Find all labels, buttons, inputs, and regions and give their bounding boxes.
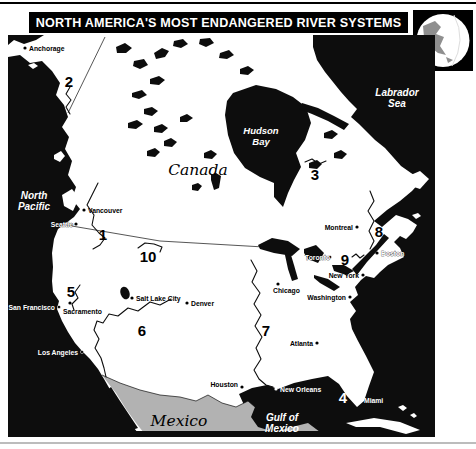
city-label: Boston xyxy=(381,250,404,257)
city-label: Denver xyxy=(191,300,214,307)
river-number-2: 2 xyxy=(65,73,73,90)
label-labrador-sea-line2: Sea xyxy=(388,98,406,109)
city-label: Seattle xyxy=(51,221,74,228)
river-number-1: 1 xyxy=(99,226,107,243)
city-label: Chicago xyxy=(273,287,300,295)
city-dot xyxy=(355,225,358,228)
city-label: Sacramento xyxy=(63,308,102,315)
river-number-3: 3 xyxy=(311,166,319,183)
city-dot xyxy=(375,251,378,254)
city-dot xyxy=(82,208,85,211)
label-hudson-bay-line2: Bay xyxy=(252,136,270,147)
page: NORTH AMERICA'S MOST ENDANGERED RIVER SY… xyxy=(0,0,476,449)
city-dot xyxy=(361,273,364,276)
city-washington: Washington xyxy=(307,294,351,302)
city-label: Miami xyxy=(364,397,383,404)
city-dot xyxy=(185,301,188,304)
city-dot xyxy=(74,222,77,225)
river-number-10: 10 xyxy=(140,248,157,265)
bottom-rule xyxy=(0,442,476,444)
river-number-8: 8 xyxy=(375,223,383,240)
city-label: Toronto xyxy=(305,254,330,261)
city-dot xyxy=(130,296,133,299)
river-number-5: 5 xyxy=(67,283,75,300)
city-dot xyxy=(80,350,83,353)
city-label: San Francisco xyxy=(9,304,55,311)
city-label: Los Angeles xyxy=(38,349,78,357)
city-san-francisco: San Francisco xyxy=(9,304,61,311)
city-label: Atlanta xyxy=(290,340,313,347)
river-number-4: 4 xyxy=(339,389,348,406)
title-bar: NORTH AMERICA'S MOST ENDANGERED RIVER SY… xyxy=(29,12,408,33)
city-anchorage: Anchorage xyxy=(23,45,64,53)
city-label: Houston xyxy=(210,381,238,388)
city-label: New York xyxy=(329,272,360,279)
city-label: Salt Lake City xyxy=(136,295,181,303)
city-label: Vancouver xyxy=(88,207,123,214)
city-salt-lake-city: Salt Lake City xyxy=(130,295,180,303)
label-gulf-of-mexico-line1: Gulf of xyxy=(266,412,300,423)
city-dot xyxy=(23,46,26,49)
city-dot xyxy=(274,387,277,390)
city-label: New Orleans xyxy=(280,386,321,393)
label-hudson-bay-line1: Hudson xyxy=(243,125,279,136)
river-number-7: 7 xyxy=(262,322,270,339)
city-dot xyxy=(348,295,351,298)
top-rule xyxy=(0,2,476,4)
label-gulf-of-mexico-line2: Mexico xyxy=(265,423,299,434)
city-vancouver: Vancouver xyxy=(82,207,122,214)
city-new-orleans: New Orleans xyxy=(274,386,321,393)
city-dot xyxy=(315,341,318,344)
label-canada: Canada xyxy=(168,161,228,179)
city-los-angeles: Los Angeles xyxy=(38,349,84,357)
label-labrador-sea-line1: Labrador xyxy=(375,87,419,98)
label-north-pacific-line2: Pacific xyxy=(18,201,51,212)
city-dot xyxy=(240,385,243,388)
page-title: NORTH AMERICA'S MOST ENDANGERED RIVER SY… xyxy=(36,16,402,30)
river-number-6: 6 xyxy=(138,322,146,339)
city-label: Montreal xyxy=(325,224,353,231)
city-toronto: Toronto xyxy=(305,254,332,261)
city-label: Anchorage xyxy=(29,45,65,53)
map: 1 2 3 4 5 6 7 8 9 10 North Pacific Hudso… xyxy=(8,35,435,437)
river-number-9: 9 xyxy=(341,251,349,268)
city-dot xyxy=(276,282,279,285)
bottom-water-strip xyxy=(8,431,435,437)
city-dot xyxy=(358,398,361,401)
city-dot xyxy=(57,305,60,308)
label-mexico: Mexico xyxy=(150,412,208,430)
city-dot xyxy=(68,301,71,304)
city-label: Washington xyxy=(307,294,346,302)
label-north-pacific-line1: North xyxy=(21,190,48,201)
